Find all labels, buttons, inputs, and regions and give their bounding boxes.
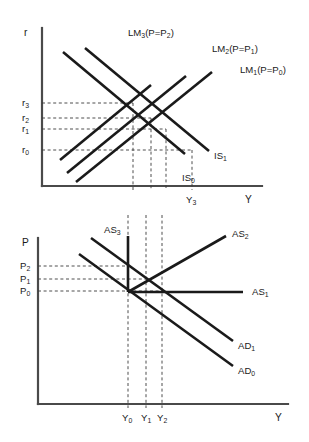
tick-label-y1: Y1 [141, 412, 151, 424]
curve-label-is0: IS0 [182, 172, 195, 184]
curve-lm3 [60, 85, 151, 160]
curve-label-as2: AS2 [232, 228, 249, 240]
curve-as2 [128, 236, 226, 292]
curve-is1 [85, 48, 209, 151]
curve-label-as1: AS1 [252, 286, 269, 298]
curve-lm1 [76, 72, 212, 182]
curve-label-ad1: AD1 [238, 340, 255, 352]
tick-label-y0: Y0 [122, 412, 132, 424]
curve-lm2 [67, 76, 186, 173]
is-lm-panel: r Y r3 r2 r1 r0 Y3 LM3(P=P2) LM2(P=P1) L… [22, 27, 286, 206]
tick-label-p2: P2 [20, 260, 30, 272]
tick-label-r3: r3 [22, 97, 29, 109]
tick-label-y2: Y2 [157, 412, 167, 424]
ad-as-panel: P Y P2 P1 P0 Y0 Y1 Y2 AS3 AS2 AS1 AD1 AD… [20, 215, 288, 423]
top-panel-x-axis-label: Y [245, 194, 252, 205]
bottom-panel-x-axis-label: Y [275, 412, 282, 423]
curve-label-lm1: LM1(P=P0) [240, 64, 286, 76]
tick-label-r0: r0 [22, 144, 29, 156]
tick-label-y3: Y3 [186, 194, 196, 206]
curve-label-lm3: LM3(P=P2) [128, 27, 174, 39]
curve-ad0 [79, 254, 233, 366]
tick-label-p0: P0 [20, 285, 30, 297]
economics-diagram-figure: r Y r3 r2 r1 r0 Y3 LM3(P=P2) LM2(P=P1) L… [0, 0, 309, 442]
top-panel-y-axis-label: r [24, 27, 28, 38]
curve-label-ad0: AD0 [238, 365, 255, 377]
tick-label-r1: r1 [22, 123, 29, 135]
curve-ad1 [91, 238, 233, 341]
curve-label-lm2: LM2(P=P1) [212, 43, 258, 55]
diagram-canvas: r Y r3 r2 r1 r0 Y3 LM3(P=P2) LM2(P=P1) L… [0, 0, 309, 442]
bottom-panel-y-axis-label: P [22, 237, 29, 248]
curve-label-is1: IS1 [214, 150, 227, 162]
tick-label-p1: P1 [20, 273, 30, 285]
curve-label-as3: AS3 [104, 224, 121, 236]
